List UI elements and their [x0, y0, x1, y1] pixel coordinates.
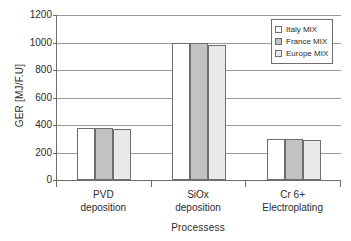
legend-swatch-icon	[275, 26, 282, 33]
category-label-line: Electroplating	[238, 201, 348, 214]
category-label-line: Cr 6+	[238, 188, 348, 201]
y-axis-tick-label: 0	[6, 175, 52, 185]
bar[interactable]	[190, 43, 208, 181]
y-axis-tick-label: 1200	[6, 10, 52, 20]
legend-label: France MIX	[286, 37, 327, 46]
category-separator	[56, 180, 57, 187]
category-label-line: PVD	[48, 188, 158, 201]
y-axis-tick-mark	[53, 70, 57, 71]
y-axis-tick-label: 800	[6, 65, 52, 75]
y-axis-tick-mark	[53, 43, 57, 44]
bar[interactable]	[172, 43, 190, 181]
y-axis-tick-mark	[53, 125, 57, 126]
bar[interactable]	[95, 128, 113, 180]
bar-group	[172, 15, 226, 180]
y-axis-tick-mark	[53, 153, 57, 154]
category-label-line: deposition	[48, 201, 158, 214]
legend-swatch-icon	[275, 38, 282, 45]
x-axis-category-label: Cr 6+Electroplating	[238, 188, 348, 214]
legend-item[interactable]: Italy MIX	[275, 24, 328, 35]
category-separator	[245, 180, 246, 187]
legend-swatch-icon	[275, 50, 282, 57]
x-axis-category-label: SiOxdeposition	[143, 188, 253, 214]
legend-label: Europe MIX	[286, 49, 328, 58]
x-axis-title: Processess	[56, 222, 340, 233]
bar[interactable]	[267, 139, 285, 180]
bar[interactable]	[77, 128, 95, 180]
legend-label: Italy MIX	[286, 25, 317, 34]
category-label-line: SiOx	[143, 188, 253, 201]
bar[interactable]	[303, 140, 321, 180]
y-axis-tick-mark	[53, 98, 57, 99]
legend-item[interactable]: France MIX	[275, 36, 328, 47]
bar[interactable]	[113, 129, 131, 180]
y-axis-tick-label: 200	[6, 148, 52, 158]
legend: Italy MIXFrance MIXEurope MIX	[271, 19, 333, 64]
x-axis-line	[57, 180, 341, 181]
y-axis-tick-label: 600	[6, 93, 52, 103]
legend-item[interactable]: Europe MIX	[275, 48, 328, 59]
y-axis-tick-label: 400	[6, 120, 52, 130]
x-axis-category-label: PVDdeposition	[48, 188, 158, 214]
category-separator	[151, 180, 152, 187]
bar[interactable]	[285, 139, 303, 180]
y-axis-tick-mark	[53, 15, 57, 16]
category-label-line: deposition	[143, 201, 253, 214]
category-separator	[340, 180, 341, 187]
y-axis-tick-label: 1000	[6, 38, 52, 48]
bar-chart: GER [MJ/F.U] 120010008006004002000 PVDde…	[0, 0, 351, 241]
bar-group	[77, 15, 131, 180]
bar[interactable]	[208, 45, 226, 180]
